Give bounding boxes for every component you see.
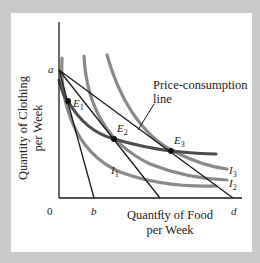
label-i2: I2 bbox=[229, 178, 237, 192]
indifference-curve-i2 bbox=[84, 56, 227, 180]
intercept-label-a: a bbox=[48, 64, 54, 75]
origin-label: 0 bbox=[47, 206, 53, 217]
label-i1: I1 bbox=[111, 165, 119, 179]
intercept-label-b: b bbox=[91, 206, 97, 217]
label-e2: E2 bbox=[117, 123, 128, 137]
x-axis-label: Quantity of Food per Week bbox=[100, 208, 240, 238]
label-i3: I3 bbox=[229, 165, 237, 179]
y-axis-label: Quantity of Clothing per Week bbox=[14, 58, 48, 198]
x-axis-label-line2: per Week bbox=[100, 223, 240, 238]
budget-line-ac bbox=[59, 70, 160, 198]
price-consumption-label-line2: line bbox=[153, 92, 247, 106]
price-consumption-pointer bbox=[138, 104, 154, 130]
point-e1 bbox=[65, 98, 71, 104]
intercept-label-d: d bbox=[231, 206, 237, 217]
price-consumption-label: Price-consumption line bbox=[153, 78, 247, 106]
y-axis-label-line2: per Week bbox=[31, 58, 46, 198]
intercept-label-c: c bbox=[158, 206, 163, 217]
y-axis-label-line1: Quantity of Clothing bbox=[16, 58, 31, 198]
price-consumption-label-line1: Price-consumption bbox=[153, 78, 247, 92]
label-e3: E3 bbox=[174, 135, 185, 149]
label-e1: E1 bbox=[73, 98, 84, 112]
x-axis-label-line1: Quantity of Food bbox=[100, 208, 240, 223]
